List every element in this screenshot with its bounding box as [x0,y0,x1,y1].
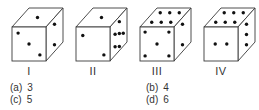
pip-icon [122,32,125,35]
pip-icon [223,11,226,14]
pip-icon [167,54,170,57]
pip-icon [113,45,116,48]
pip-icon [118,32,121,35]
pip-icon [160,21,163,24]
option-key: (d) [146,94,158,105]
pip-icon [113,33,116,36]
pip-icon [245,33,248,36]
pip-icon [159,11,162,14]
pip-icon [242,11,245,14]
pip-icon [102,53,105,56]
pip-icon [81,34,84,37]
die-label: I [27,66,31,77]
option-key: (b) [146,82,158,93]
pip-icon [118,45,121,48]
pip-icon [53,43,56,46]
dice-figure [0,0,259,66]
pip-icon [169,21,172,24]
pip-icon [214,21,217,24]
pip-icon [143,30,146,33]
pip-icon [181,23,184,26]
pip-icon [150,21,153,24]
die-IV [204,8,255,61]
die-label: IV [215,66,226,77]
die-I [12,8,63,61]
pip-icon [27,42,30,45]
pip-icon [245,43,248,46]
die-label: III [152,66,163,77]
answer-option[interactable]: (b)4 [146,82,169,93]
pip-icon [167,30,170,33]
answer-option[interactable]: (c)5 [10,94,32,105]
pip-icon [38,53,41,56]
pip-icon [214,42,217,45]
die-III [140,8,191,61]
option-value: 6 [163,94,169,105]
pip-icon [178,11,181,14]
option-value: 5 [27,94,33,105]
pip-icon [224,21,227,24]
pip-icon [233,21,236,24]
die-front-face [204,27,238,61]
pip-icon [53,23,56,26]
pip-icon [245,23,248,26]
pip-icon [143,54,146,57]
pip-icon [225,42,228,45]
answer-option[interactable]: (d)6 [146,94,169,105]
option-value: 4 [163,82,169,93]
pip-icon [155,42,158,45]
pip-icon [36,16,39,19]
pip-icon [232,11,235,14]
option-key: (a) [10,82,22,93]
option-value: 3 [27,82,33,93]
pip-icon [168,11,171,14]
answer-option[interactable]: (a)3 [10,82,33,93]
pip-icon [181,43,184,46]
pip-icon [118,20,121,23]
die-II [76,8,127,61]
option-key: (c) [10,94,22,105]
die-label: II [89,66,96,77]
pip-icon [16,31,19,34]
pip-icon [100,16,103,19]
